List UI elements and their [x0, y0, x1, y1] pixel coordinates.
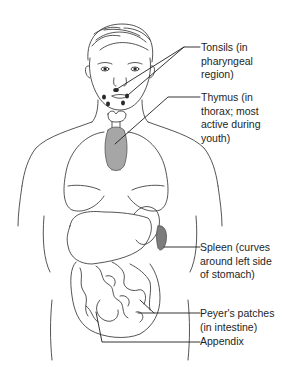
label-peyers-patches: Peyer's patches (in intestine) [200, 307, 274, 334]
thymus-shape [105, 127, 127, 171]
hair [88, 24, 153, 62]
label-tonsils: Tonsils (in pharyngeal region) [201, 41, 253, 82]
tonsils-leader [117, 47, 200, 95]
label-spleen: Spleen (curves around left side of stoma… [200, 241, 272, 282]
lymphoid-organs-diagram: Tonsils (in pharyngeal region) Thymus (i… [0, 0, 289, 368]
label-thymus: Thymus (in thorax; most active during yo… [201, 91, 261, 145]
leader-lines [96, 47, 200, 342]
stomach [134, 207, 159, 245]
appendix-leader [96, 312, 200, 342]
label-appendix: Appendix [200, 335, 244, 349]
peyers-patches-leader [138, 300, 200, 313]
spleen-shape [157, 226, 167, 250]
head [85, 58, 154, 110]
liver [67, 212, 151, 264]
intestines [71, 262, 160, 337]
